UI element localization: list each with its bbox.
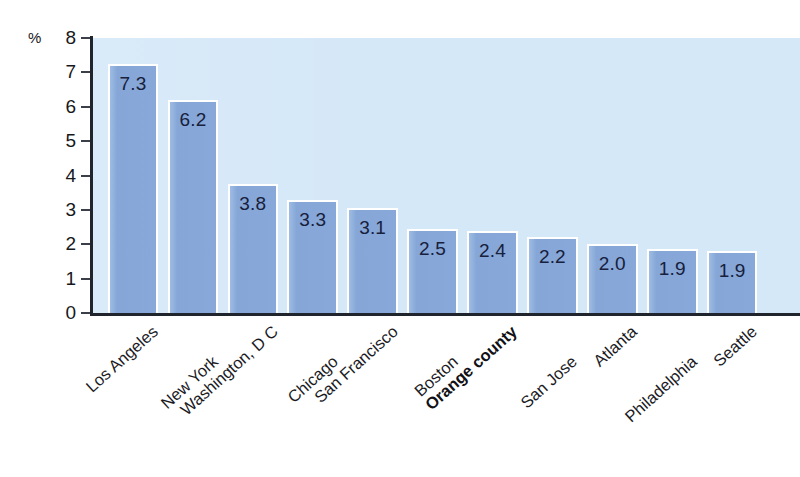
- x-axis-line: [90, 313, 800, 316]
- y-axis-tick-label: 1: [50, 268, 76, 290]
- bar-value-label: 7.3: [110, 73, 157, 95]
- y-axis-tick-label: 2: [50, 233, 76, 255]
- y-axis-tick-label: 4: [50, 165, 76, 187]
- y-axis-tick-mark: [81, 106, 90, 108]
- y-axis-tick-label: 7: [50, 61, 76, 83]
- y-axis-unit-label: %: [28, 29, 41, 46]
- y-axis-tick-mark: [81, 243, 90, 245]
- y-axis-tick-mark: [81, 278, 90, 280]
- bar-value-label: 1.9: [709, 260, 756, 282]
- bar-value-label: 1.9: [649, 258, 696, 280]
- y-axis-tick-label: 3: [50, 199, 76, 221]
- bar[interactable]: 3.8: [228, 184, 279, 313]
- y-axis-tick-mark: [81, 209, 90, 211]
- x-axis-category-label-text: Los Angeles: [82, 322, 162, 396]
- bar-value-label: 3.1: [349, 217, 396, 239]
- y-axis-tick-label: 0: [50, 302, 76, 324]
- y-axis-tick-label: 5: [50, 130, 76, 152]
- x-axis-category-label-text: San Jose: [517, 352, 581, 412]
- y-axis-tick-mark: [81, 312, 90, 314]
- bar-value-label: 3.3: [289, 209, 336, 231]
- bar-value-label: 3.8: [230, 193, 277, 215]
- y-axis-tick-mark: [81, 71, 90, 73]
- bar-value-label: 2.2: [529, 246, 576, 268]
- bar-chart: % 876543210 7.36.23.83.33.12.52.42.22.01…: [0, 0, 800, 477]
- bar-value-label: 6.2: [170, 109, 217, 131]
- y-axis-tick-label: 8: [50, 27, 76, 49]
- bar[interactable]: 7.3: [108, 64, 159, 313]
- y-axis-tick-mark: [81, 175, 90, 177]
- bar-value-label: 2.4: [469, 240, 516, 262]
- y-axis-tick-label: 6: [50, 96, 76, 118]
- y-axis-line: [90, 36, 93, 315]
- bar-value-label: 2.5: [409, 238, 456, 260]
- bar[interactable]: 2.4: [467, 231, 518, 314]
- x-axis-category-label-text: Philadelphia: [621, 352, 701, 426]
- y-axis-tick-mark: [81, 37, 90, 39]
- y-axis-tick-mark: [81, 140, 90, 142]
